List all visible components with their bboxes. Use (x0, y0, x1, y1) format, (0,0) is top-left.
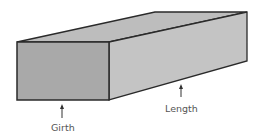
girth-arrow-icon (60, 104, 64, 118)
girth-label: Girth (51, 122, 75, 133)
box-diagram: Girth Length (0, 0, 264, 139)
length-label: Length (165, 103, 198, 114)
front-face (17, 42, 109, 100)
length-arrow-icon (179, 84, 183, 97)
